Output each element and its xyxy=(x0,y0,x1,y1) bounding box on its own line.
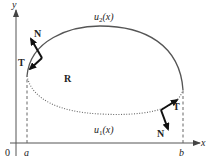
upper-curve-label: u2(x) xyxy=(94,11,114,24)
left-normal-arrow xyxy=(31,39,42,58)
right-tangent-label: T xyxy=(173,101,180,112)
a-label: a xyxy=(24,147,29,158)
left-normal-label: N xyxy=(34,28,42,39)
region-label: R xyxy=(64,73,72,84)
b-label: b xyxy=(179,147,184,158)
region-boundary-diagram: y x 0 a b R N T T N u2(x) u1(x) xyxy=(0,0,210,160)
upper-curve-u2 xyxy=(27,26,183,90)
right-normal-arrow xyxy=(161,110,168,129)
lower-curve-u1 xyxy=(27,76,183,114)
lower-curve-label: u1(x) xyxy=(94,124,114,137)
origin-label: 0 xyxy=(5,147,10,158)
y-axis-label: y xyxy=(11,0,17,10)
right-normal-label: N xyxy=(157,128,165,139)
x-axis-label: x xyxy=(200,137,206,148)
left-tangent-label: T xyxy=(18,57,25,68)
